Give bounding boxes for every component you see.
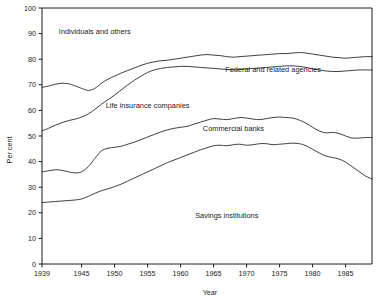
y-tick-label: 20 <box>28 208 36 217</box>
series-line-federal-and-related-agencies <box>42 66 372 131</box>
x-tick-label: 1975 <box>272 269 288 278</box>
x-tick-label: 1985 <box>338 269 354 278</box>
y-tick-label: 30 <box>28 183 36 192</box>
y-tick-label: 60 <box>28 106 36 115</box>
plot-frame <box>42 8 372 264</box>
x-tick-label: 1965 <box>206 269 222 278</box>
y-tick-label: 40 <box>28 157 36 166</box>
annotation-federal-and-related-agencies: Federal and related agencies <box>225 65 321 74</box>
y-tick-label: 0 <box>32 260 36 269</box>
y-axis-ticks: 0102030405060708090100 <box>24 4 42 269</box>
x-tick-label: 1970 <box>239 269 255 278</box>
annotation-commercial-banks: Commercial banks <box>203 124 265 133</box>
annotation-savings-institutions: Savings institutions <box>195 211 259 220</box>
mortgage-holdings-chart: 0102030405060708090100 19391945195019551… <box>0 0 384 299</box>
y-tick-label: 50 <box>28 132 36 141</box>
annotation-life-insurance-companies: Life insurance companies <box>106 101 190 110</box>
chart-canvas: 0102030405060708090100 19391945195019551… <box>0 0 384 299</box>
x-tick-label: 1939 <box>34 269 50 278</box>
series-line-individuals-and-others <box>42 53 372 91</box>
x-tick-label: 1955 <box>140 269 156 278</box>
x-axis-title: Year <box>203 288 218 297</box>
y-tick-label: 90 <box>28 29 36 38</box>
x-tick-label: 1950 <box>107 269 123 278</box>
y-tick-label: 100 <box>24 4 36 13</box>
y-axis-title: Per cent <box>5 137 14 164</box>
series-annotations: Individuals and othersFederal and relate… <box>59 27 321 220</box>
x-tick-label: 1980 <box>305 269 321 278</box>
x-tick-label: 1960 <box>173 269 189 278</box>
x-axis-ticks: 1939194519501955196019651970197519801985 <box>34 264 354 278</box>
series-line-savings-institutions <box>42 143 372 202</box>
y-tick-label: 80 <box>28 55 36 64</box>
axes-group <box>42 8 372 264</box>
x-tick-label: 1945 <box>74 269 90 278</box>
y-tick-label: 10 <box>28 234 36 243</box>
y-tick-label: 70 <box>28 80 36 89</box>
annotation-individuals-and-others: Individuals and others <box>59 27 131 36</box>
